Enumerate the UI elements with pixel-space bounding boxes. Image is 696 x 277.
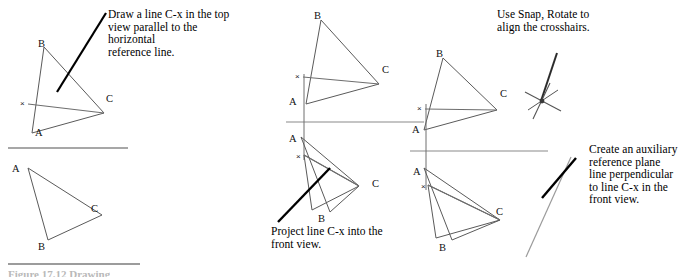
line-c-x-front bbox=[428, 185, 500, 220]
line-c-x-top bbox=[303, 77, 379, 84]
panel-2-top-view bbox=[303, 20, 379, 104]
line-c-x-top bbox=[28, 104, 104, 113]
caption-step1: Draw a line C-x in the top view parallel… bbox=[108, 8, 232, 58]
triangle-abc-front-secondary bbox=[428, 185, 500, 238]
panel-1-front-view-vertex-label-a: A bbox=[12, 163, 20, 174]
caption-step2: Project line C-x into the front view. bbox=[271, 225, 403, 250]
triangle-abc-top bbox=[424, 58, 497, 130]
caption-step3: Use Snap, Rotate to align the crosshairs… bbox=[497, 8, 617, 33]
triangle-abc-top bbox=[32, 47, 104, 133]
panel-1-top-view bbox=[28, 13, 106, 133]
leader-line-step4 bbox=[542, 158, 576, 198]
panel-3-top-view-vertex-label-c: C bbox=[500, 88, 507, 99]
auxiliary-plane-line-preview bbox=[541, 53, 557, 101]
panel-3-front-view-vertex-label-c: C bbox=[496, 206, 503, 217]
panel-2-front-view bbox=[278, 137, 359, 222]
panel-2-front-view-vertex-label-b: B bbox=[318, 213, 325, 224]
panel-3-top-view bbox=[424, 58, 497, 130]
panel-3-front-view-vertex-label-b: B bbox=[439, 242, 446, 253]
panel-2-top-view-vertex-label-c: C bbox=[382, 64, 389, 75]
triangle-abc-front bbox=[424, 168, 500, 240]
panel-1-top-view-vertex-label-c: C bbox=[106, 93, 113, 104]
caption-step4: Create an auxiliary reference plane line… bbox=[589, 143, 693, 206]
figure-number-caption: Figure 17.12 Drawing bbox=[8, 268, 110, 277]
panel-2-top-view-vertex-label-a: A bbox=[289, 96, 297, 107]
panel-2-front-view-vertex-label-a: A bbox=[289, 133, 297, 144]
panel-2-top-view-vertex-label-b: B bbox=[314, 10, 321, 21]
panel-2-top-view-point-label-x: × bbox=[295, 72, 300, 81]
panel-1-top-view-vertex-label-b: B bbox=[38, 38, 45, 49]
triangle-abc-top bbox=[306, 20, 379, 104]
panel-3-top-view-point-label-x: × bbox=[417, 104, 422, 113]
panel-3-front-view-vertex-label-a: A bbox=[413, 166, 421, 177]
panel-3-top-view-vertex-label-b: B bbox=[436, 48, 443, 59]
crosshairs-group bbox=[525, 53, 561, 119]
figure-page: Draw a line C-x in the top view parallel… bbox=[0, 0, 696, 277]
panel-1-front-view-vertex-label-b: B bbox=[38, 241, 45, 252]
panel-1-top-view-point-label-x: × bbox=[20, 99, 25, 108]
panel-1-front-view-vertex-label-c: C bbox=[91, 203, 98, 214]
panel-1-top-view-vertex-label-a: A bbox=[35, 127, 43, 138]
leader-line-step1 bbox=[57, 13, 106, 92]
panel-3-front-view-point-label-x: × bbox=[421, 182, 426, 191]
panel-3-front-view bbox=[424, 168, 500, 240]
panel-2-front-view-vertex-label-c: C bbox=[372, 178, 379, 189]
crosshair-center-icon bbox=[540, 99, 545, 104]
panel-3-top-view-vertex-label-a: A bbox=[412, 124, 420, 135]
line-c-x-top bbox=[425, 109, 497, 110]
line-c-x-front bbox=[304, 155, 359, 186]
panel-2-front-view-point-label-x: × bbox=[296, 152, 301, 161]
auxiliary-reference-plane-group bbox=[526, 157, 576, 257]
